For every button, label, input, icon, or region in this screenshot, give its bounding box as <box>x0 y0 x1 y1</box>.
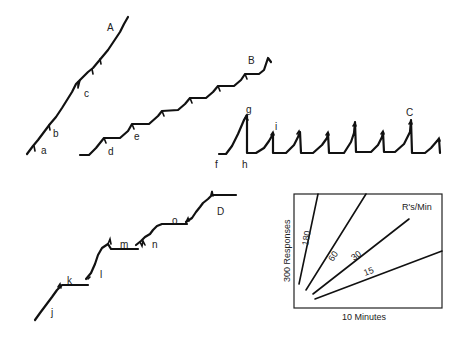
key-x-axis-label: 10 Minutes <box>342 312 387 322</box>
rate-label-180: 180 <box>300 230 312 247</box>
rate-label-60: 60 <box>326 249 340 263</box>
label-g: g <box>246 104 252 115</box>
label-f: f <box>215 159 218 170</box>
label-D: D <box>217 206 224 217</box>
label-b: b <box>53 128 59 139</box>
record-b <box>80 58 271 155</box>
label-A: A <box>107 22 114 33</box>
key-y-axis-label: 300 Responses <box>282 219 292 282</box>
record-d <box>35 191 236 320</box>
label-e: e <box>134 131 140 142</box>
cumulative-record-figure: A a b c B d e f g h i C D j k l m n o R'… <box>0 0 466 342</box>
rate-label-30: 30 <box>349 249 363 263</box>
label-c: c <box>84 88 89 99</box>
label-C: C <box>406 107 413 118</box>
rate-key: R's/Min 180 60 30 15 300 Responses 10 Mi… <box>282 194 442 322</box>
label-n: n <box>152 239 158 250</box>
label-m: m <box>120 239 128 250</box>
label-a: a <box>41 145 47 156</box>
label-i: i <box>275 121 277 132</box>
key-title: R's/Min <box>402 202 432 212</box>
label-o: o <box>172 215 178 226</box>
rate-label-15: 15 <box>362 265 375 278</box>
label-d: d <box>108 146 114 157</box>
label-h: h <box>242 159 248 170</box>
record-a <box>27 17 128 154</box>
label-l: l <box>100 269 102 280</box>
record-c <box>219 115 440 154</box>
label-B: B <box>248 55 255 66</box>
label-j: j <box>50 307 53 318</box>
